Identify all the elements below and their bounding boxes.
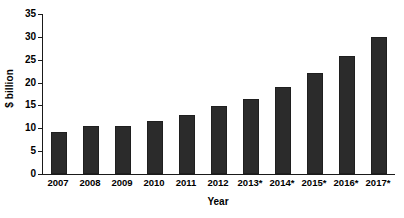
bar [307, 73, 323, 174]
x-axis-tick-labels: 2007200820092010201120122013*2014*2015*2… [42, 178, 394, 194]
y-axis-tick-label: 35 [25, 9, 36, 19]
x-axis-tick-label: 2009 [111, 178, 132, 188]
bar [83, 126, 99, 174]
x-axis-tick-label: 2014* [270, 178, 295, 188]
bars-layer [43, 14, 395, 174]
bar-slot [171, 14, 203, 174]
y-axis-tick-labels: 05101520253035 [18, 10, 38, 178]
y-axis-tick-label: 15 [25, 100, 36, 110]
y-axis-tick-label: 10 [25, 123, 36, 133]
y-axis-tick-label: 25 [25, 55, 36, 65]
x-axis-tick-label: 2012 [207, 178, 228, 188]
x-axis-tick-label: 2008 [79, 178, 100, 188]
bar [371, 37, 387, 174]
bar [51, 132, 67, 175]
x-axis-tick-label: 2015* [302, 178, 327, 188]
bar-slot [43, 14, 75, 174]
bar-slot [203, 14, 235, 174]
bar [179, 115, 195, 174]
bar-slot [267, 14, 299, 174]
x-axis-title: Year [42, 196, 394, 207]
bar-slot [139, 14, 171, 174]
bar-slot [75, 14, 107, 174]
y-axis-tick-label: 20 [25, 78, 36, 88]
y-axis-tick-mark [38, 174, 43, 175]
bar [147, 121, 163, 174]
x-axis-title-label: Year [207, 196, 228, 207]
x-axis-tick-label: 2013* [238, 178, 263, 188]
y-axis-tick-label: 30 [25, 32, 36, 42]
y-axis-tick-label: 5 [30, 146, 36, 156]
bar [115, 126, 131, 174]
bar-slot [363, 14, 395, 174]
bar [243, 99, 259, 174]
bar-slot [331, 14, 363, 174]
bar-slot [235, 14, 267, 174]
x-axis-tick-label: 2011 [176, 178, 197, 188]
plot-area [42, 14, 395, 175]
bar-chart-figure: $ billion 05101520253035 200720082009201… [0, 0, 404, 218]
y-axis-title: $ billion [0, 0, 18, 176]
y-axis-tick-label: 0 [30, 169, 36, 179]
bar [275, 87, 291, 174]
x-axis-tick-label: 2007 [47, 178, 68, 188]
bar [211, 106, 227, 174]
y-axis-title-label: $ billion [4, 69, 15, 108]
x-axis-tick-label: 2010 [143, 178, 164, 188]
bar-slot [299, 14, 331, 174]
x-axis-tick-label: 2016* [334, 178, 359, 188]
x-axis-tick-label: 2017* [366, 178, 391, 188]
bar-slot [107, 14, 139, 174]
bar [339, 56, 355, 174]
